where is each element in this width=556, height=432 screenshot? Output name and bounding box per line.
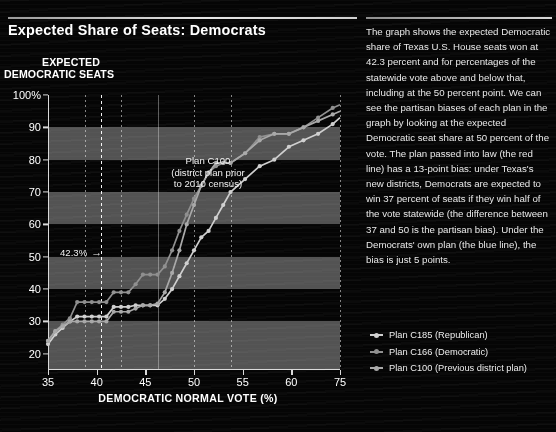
legend-item: Plan C185 (Republican) xyxy=(370,330,556,340)
annotation-vote-marker: 42.3%→ xyxy=(60,246,102,258)
series-point xyxy=(119,290,123,294)
chart-plot-area: 2030405060708090100% 35404550556075 xyxy=(48,95,340,370)
legend-item: Plan C100 (Previous district plan) xyxy=(370,363,556,373)
x-tick-mark xyxy=(145,370,146,375)
series-point xyxy=(287,132,291,136)
chart-series-layer xyxy=(48,95,340,370)
series-point xyxy=(170,271,174,275)
series-point xyxy=(221,203,225,207)
series-point xyxy=(126,290,130,294)
annotation-marker-value: 42.3% xyxy=(60,247,87,258)
y-axis-title-line2: DEMOCRATIC SEATS xyxy=(4,68,164,80)
series-point xyxy=(331,106,335,110)
y-tick-label: 80 xyxy=(29,154,41,166)
y-tick-label: 70 xyxy=(29,186,41,198)
series-point xyxy=(46,339,50,343)
series-point xyxy=(301,125,305,129)
x-tick-mark xyxy=(194,370,195,375)
series-point xyxy=(104,300,108,304)
series-point xyxy=(258,138,262,142)
series-line xyxy=(48,118,340,344)
series-point xyxy=(126,305,130,309)
header-rule-right xyxy=(366,17,552,19)
x-tick-label: 60 xyxy=(285,376,297,388)
x-tick-mark xyxy=(340,370,341,375)
series-point xyxy=(155,302,159,306)
series-point xyxy=(177,274,181,278)
annotation-plan-c100: Plan C100 (district plan prior to 2010 c… xyxy=(146,155,270,190)
series-point xyxy=(104,319,108,323)
series-point xyxy=(141,303,145,307)
series-point xyxy=(287,145,291,149)
series-point xyxy=(185,222,189,226)
x-tick-mark xyxy=(243,370,244,375)
series-point xyxy=(177,248,181,252)
series-point xyxy=(90,319,94,323)
series-point xyxy=(141,272,145,276)
series-point xyxy=(316,119,320,123)
series-point xyxy=(272,132,276,136)
series-point xyxy=(228,190,232,194)
x-tick-mark xyxy=(97,370,98,375)
header-rule-left xyxy=(8,17,357,19)
series-point xyxy=(112,310,116,314)
y-tick-label: 20 xyxy=(29,348,41,360)
x-tick-label: 35 xyxy=(42,376,54,388)
series-point xyxy=(214,216,218,220)
series-point xyxy=(199,235,203,239)
series-point xyxy=(119,305,123,309)
series-point xyxy=(75,315,79,319)
series-line xyxy=(48,111,340,341)
series-point xyxy=(301,138,305,142)
series-point xyxy=(177,229,181,233)
chart-legend: Plan C185 (Republican)Plan C166 (Democra… xyxy=(370,330,556,380)
legend-label: Plan C166 (Democratic) xyxy=(389,347,488,357)
series-point xyxy=(134,306,138,310)
x-tick-label: 55 xyxy=(237,376,249,388)
series-line xyxy=(48,105,340,341)
series-point xyxy=(316,132,320,136)
annotation-c100-line1: Plan C100 xyxy=(186,155,231,166)
series-point xyxy=(185,213,189,217)
y-tick-label: 60 xyxy=(29,218,41,230)
series-point xyxy=(119,310,123,314)
series-point xyxy=(163,290,167,294)
series-point xyxy=(97,300,101,304)
series-point xyxy=(185,261,189,265)
y-tick-label: 40 xyxy=(29,283,41,295)
legend-label: Plan C185 (Republican) xyxy=(389,330,488,340)
series-point xyxy=(82,300,86,304)
legend-swatch-icon xyxy=(370,334,383,336)
series-point xyxy=(163,297,167,301)
series-point xyxy=(272,158,276,162)
series-point xyxy=(75,319,79,323)
legend-label: Plan C100 (Previous district plan) xyxy=(389,363,527,373)
series-point xyxy=(207,229,211,233)
series-point xyxy=(148,303,152,307)
series-point xyxy=(97,315,101,319)
annotation-c100-line3: to 2010 census) xyxy=(174,178,242,189)
x-tick-label: 40 xyxy=(91,376,103,388)
series-point xyxy=(148,272,152,276)
series-point xyxy=(134,282,138,286)
y-axis-title: EXPECTED DEMOCRATIC SEATS xyxy=(4,56,164,81)
annotation-c100-line2: (district plan prior xyxy=(171,167,245,178)
series-point xyxy=(82,319,86,323)
x-tick-mark xyxy=(48,370,49,375)
legend-item: Plan C166 (Democratic) xyxy=(370,347,556,357)
y-tick-label: 90 xyxy=(29,121,41,133)
series-point xyxy=(170,248,174,252)
description-paragraph: The graph shows the expected Democratic … xyxy=(366,24,552,267)
series-point xyxy=(97,319,101,323)
series-point xyxy=(90,300,94,304)
sidebar-text-block: The graph shows the expected Democratic … xyxy=(366,24,552,267)
x-tick-label: 45 xyxy=(139,376,151,388)
series-point xyxy=(82,315,86,319)
y-axis-title-line1: EXPECTED xyxy=(4,56,164,68)
series-point xyxy=(68,319,72,323)
series-point xyxy=(61,324,65,328)
series-point xyxy=(126,310,130,314)
y-tick-label: 50 xyxy=(29,251,41,263)
series-point xyxy=(331,112,335,116)
y-tick-label: 100% xyxy=(13,89,41,101)
